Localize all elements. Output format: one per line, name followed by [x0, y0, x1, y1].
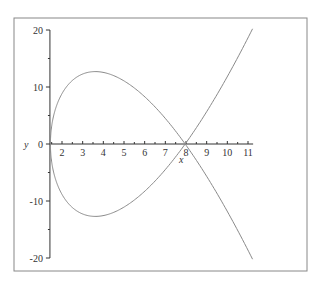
x-tick-label: 3 [80, 147, 85, 158]
x-axis-label: x [178, 154, 184, 165]
y-tick-label: 20 [33, 25, 43, 36]
x-tick-label: 7 [163, 147, 168, 158]
y-tick-label: 10 [33, 82, 43, 93]
y-tick-label: 0 [38, 139, 43, 150]
x-tick-label: 8 [184, 147, 189, 158]
x-tick-label: 4 [101, 147, 106, 158]
x-tick-label: 10 [222, 147, 232, 158]
y-tick-label: -20 [30, 253, 43, 264]
chart: 234567891011-20-1001020 x y [0, 0, 321, 281]
x-tick-label: 11 [243, 147, 253, 158]
y-tick-label: -10 [30, 196, 43, 207]
x-tick-label: 2 [60, 147, 65, 158]
x-tick-label: 5 [122, 147, 127, 158]
y-axis-label: y [23, 139, 29, 150]
x-tick-label: 9 [204, 147, 209, 158]
x-tick-label: 6 [142, 147, 147, 158]
